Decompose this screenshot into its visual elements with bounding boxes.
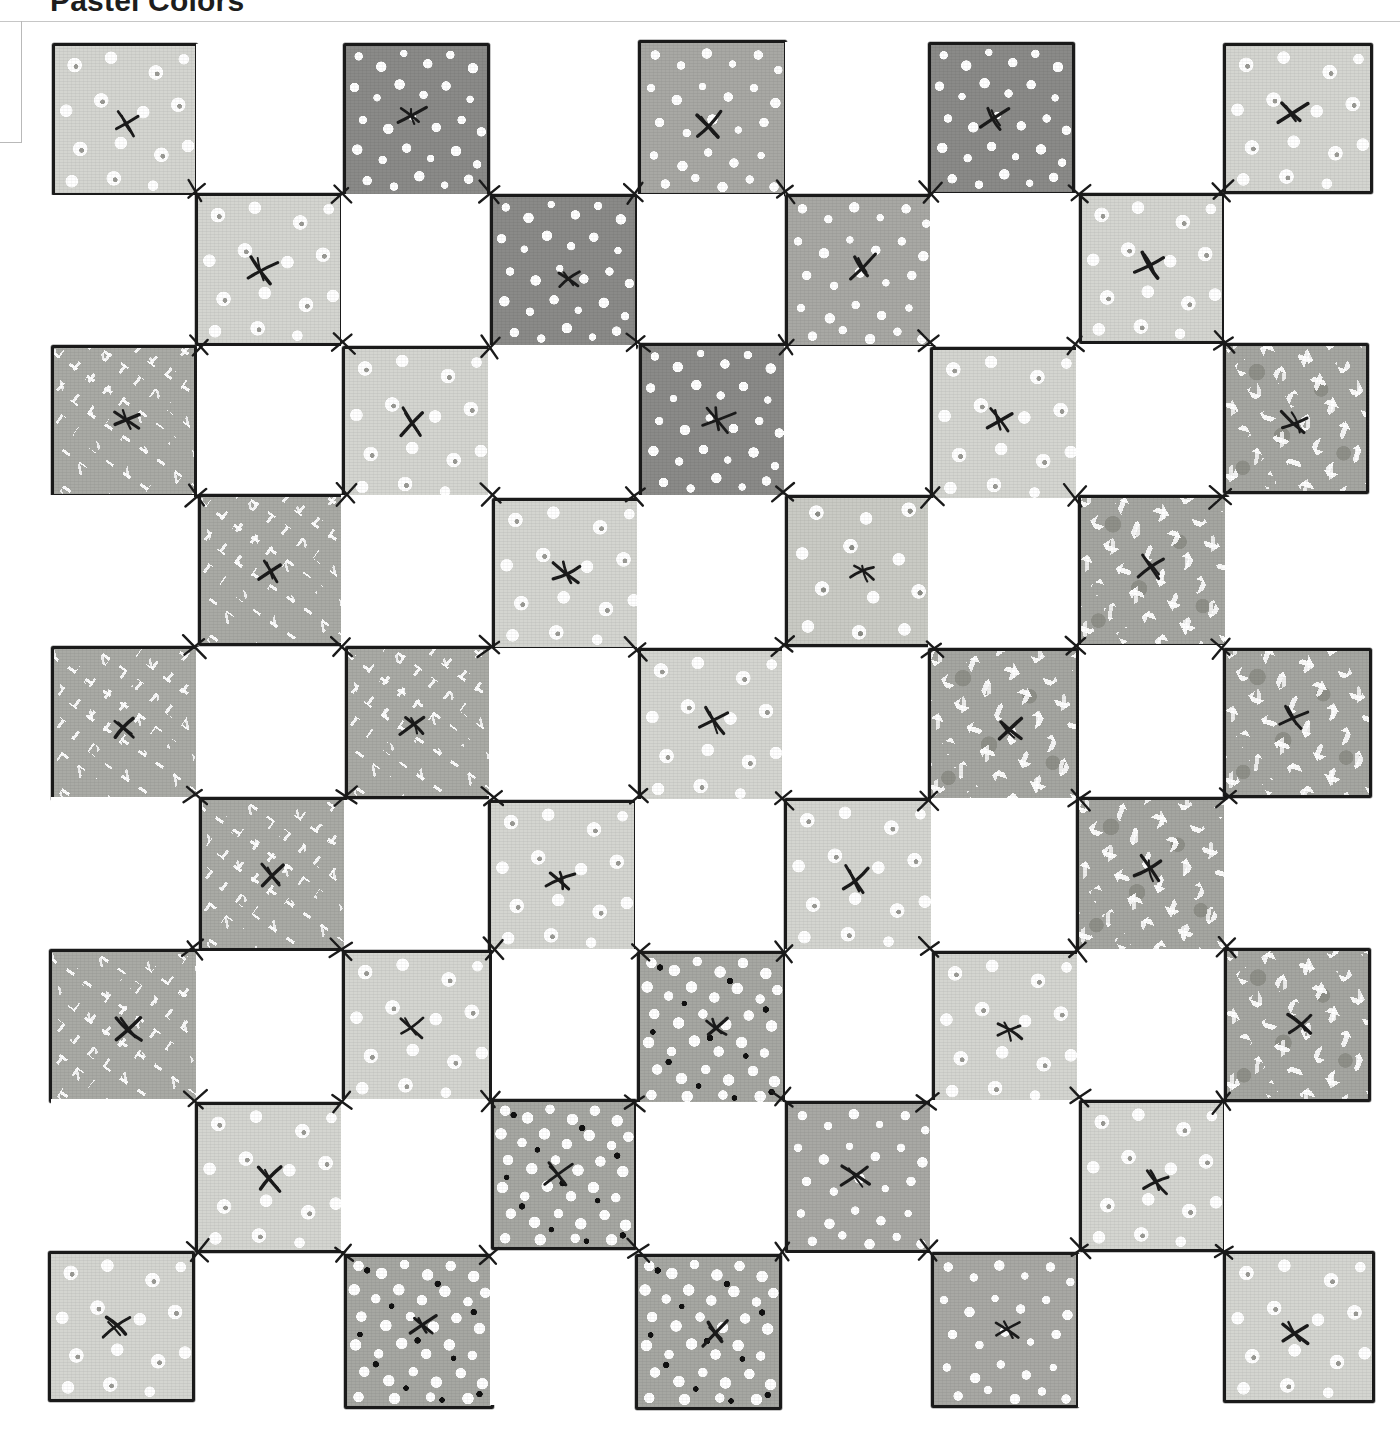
fabric-print-light-floral-print [1226,46,1369,192]
quilt-patch-white-dash-print [198,494,345,647]
fabric-print-light-floral-print [933,350,1079,500]
quilt-patch-light-floral-print [488,800,636,953]
quilt-patch-plain-white [931,798,1079,951]
quilt-patch-light-floral-print [195,1102,346,1253]
quilt-patch-pebble-dot-print [344,1254,494,1409]
fabric-print-mid-confetti-print [788,1104,931,1250]
quilt-patch-plain-white [196,951,346,1102]
fabric-print-brushstroke-print [1081,498,1226,644]
quilt-patch-plain-white [491,41,642,191]
fabric-print-light-floral-print [55,46,195,193]
fabric-print-pebble-dot-print [347,1257,491,1406]
quilt-patch-white-dash-print [345,646,492,799]
fabric-print-light-floral-print [198,1105,343,1250]
quilt-patch-light-floral-print [342,950,491,1103]
quilt-patch-mid-confetti-print [785,1101,934,1253]
quilt-patch-plain-white [344,800,492,956]
fabric-print-brushstroke-print [1079,800,1224,949]
fabric-print-light-floral-print [198,196,340,343]
quilt-patch-plain-white [1076,344,1225,500]
quilt-patch-light-floral-print [342,346,491,502]
quilt-patch-light-floral-print [52,43,198,196]
quilt-patch-light-floral-print [930,347,1082,503]
fabric-print-white-dash-print [202,800,345,949]
quilt-patch-light-floral-print [1223,43,1372,195]
fabric-print-pebble-dot-print [640,954,783,1104]
fabric-print-light-floral-print [1226,1254,1371,1400]
quilt-patch-light-floral-print [784,798,935,952]
quilt-patch-plain-white [488,345,636,497]
quilt-patch-brushstroke-print [1224,948,1371,1102]
quilt-patch-dark-confetti-print [490,194,637,350]
quilt-patch-plain-white [635,799,785,950]
quilt-patch-plain-white [199,1254,351,1410]
quilt-patch-dark-confetti-print [928,42,1074,195]
quilt-patch-plain-white [1079,645,1230,798]
fabric-print-dark-confetti-print [346,46,486,194]
quilt-patch-mid-confetti-print [785,194,935,347]
quilt-patch-brushstroke-print [1223,648,1373,798]
fabric-print-white-dash-print [52,952,197,1100]
quilt-patch-brushstroke-print [1076,797,1227,952]
patchwork-quilt [50,42,1370,1404]
fabric-print-white-dash-print [201,497,342,644]
quilt-patch-plain-white [930,1100,1081,1255]
fabric-print-brushstroke-print [931,651,1076,801]
quilt-patch-plain-white [341,194,489,347]
quilt-patch-light-floral-print [48,1251,195,1402]
quilt-patch-plain-white [636,1102,787,1255]
quilt-patch-dark-confetti-print [343,43,489,197]
quilt-patch-white-dash-print [51,646,198,802]
quilt-patch-plain-white [1224,800,1375,954]
quilt-patch-plain-white [1225,497,1371,653]
fabric-print-mid-confetti-print [788,197,932,344]
quilt-patch-plain-white [782,648,930,799]
quilt-patch-plain-white [48,495,194,647]
fabric-print-light-floral-print [491,803,633,950]
fabric-print-brushstroke-print [1226,651,1370,795]
title-frame [0,21,22,143]
quilt-patch-white-dash-print [49,949,200,1103]
quilt-patch-plain-white [637,194,783,345]
quilt-patch-plain-white [785,42,933,198]
fabric-print-pebble-dot-print [494,1102,634,1247]
quilt-patch-light-floral-print [195,193,343,346]
fabric-print-dark-confetti-print [931,45,1071,192]
quilt-patch-light-floral-print [638,648,785,804]
fabric-print-pebble-dot-print [638,1257,779,1407]
fabric-print-white-dash-print [54,348,194,495]
fabric-print-light-floral-print [1082,1103,1223,1248]
quilt-patch-light-floral-print [932,951,1081,1107]
quilt-patch-plain-white [930,193,1077,345]
quilt-patch-plain-white [1224,195,1374,346]
quilt-patch-plain-white [785,949,936,1104]
page-title: Pastel Colors [50,0,244,18]
quilt-patch-light-floral-print [1223,1251,1374,1403]
fabric-print-white-dash-print [348,649,489,796]
fabric-print-light-floral-print [495,501,641,647]
quilt-patch-plain-white [784,346,936,501]
fabric-print-brushstroke-print [1227,951,1368,1099]
quilt-patch-white-dash-print [51,345,197,498]
quilt-patch-plain-white [196,647,348,798]
fabric-print-mid-floral-print [788,498,930,644]
quilt-patch-plain-white [1078,1254,1227,1408]
quilt-patch-brushstroke-print [928,648,1079,804]
quilt-patch-mid-confetti-print [638,40,787,196]
quilt-patch-brushstroke-print [1078,495,1229,647]
fabric-print-light-floral-print [1082,196,1222,341]
fabric-print-light-floral-print [641,651,782,801]
quilt-patch-pebble-dot-print [635,1254,782,1410]
quilt-patch-plain-white [492,949,643,1104]
quilt-patch-plain-white [490,1251,638,1405]
fabric-print-light-floral-print [51,1254,192,1399]
fabric-print-light-floral-print [345,349,488,499]
quilt-patch-plain-white [196,44,347,194]
quilt-patch-mid-confetti-print [931,1252,1079,1408]
quilt-patch-white-dash-print [199,797,348,952]
quilt-patch-pebble-dot-print [491,1099,637,1250]
quilt-patch-plain-white [51,797,201,951]
quilt-patch-plain-white [341,1099,490,1251]
quilt-patch-light-floral-print [1079,193,1225,344]
fabric-print-brushstroke-print [1226,346,1366,491]
